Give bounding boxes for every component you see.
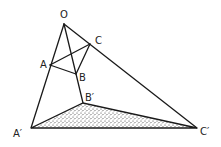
perspective-diagram: O C A B B′ A′ C′ <box>0 0 221 147</box>
label-a-prime: A′ <box>13 128 23 139</box>
label-a: A <box>40 59 47 70</box>
edge-b-c <box>76 44 90 74</box>
label-o: O <box>60 9 68 20</box>
label-b-prime: B′ <box>85 92 95 103</box>
label-c: C <box>95 35 102 46</box>
ray-o-a2 <box>31 24 64 128</box>
label-b: B <box>79 72 86 83</box>
label-c-prime: C′ <box>200 126 210 137</box>
edge-a-b <box>50 65 76 74</box>
shaded-triangle-a2b2c2 <box>31 103 197 128</box>
